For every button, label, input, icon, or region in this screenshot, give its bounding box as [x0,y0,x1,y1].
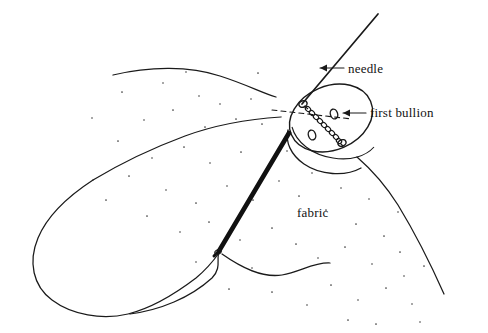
fabric-left-lobe [33,180,219,316]
callout-label-first-bullion: first bullion [370,105,434,121]
needle [302,14,378,104]
needle-shaft [302,14,378,104]
diagram-canvas [0,0,488,333]
button-center-dashed-line [272,110,352,119]
working-thread [214,133,289,256]
button-hole-bottom-left [307,129,317,141]
needle-arrowhead-icon [320,65,327,72]
thread-shaft [219,133,289,251]
sewing-diagram-figure: needle first bullion fabric [0,0,488,333]
button-face-inner-edge [292,127,374,159]
fabric-bottom-wave [222,254,330,276]
fabric-right-edge [357,157,444,294]
callout-label-needle: needle [348,61,383,77]
button-hole-top-right [329,108,339,120]
fabric-upper-lower-edge [93,117,281,180]
fabric-lower-left-edge [130,253,219,314]
callout-label-fabric: fabric [297,205,329,221]
button [272,72,383,174]
first-bullion-arrowhead-icon [343,110,350,117]
fabric-upper-edge [113,68,276,97]
button-face [279,72,383,165]
